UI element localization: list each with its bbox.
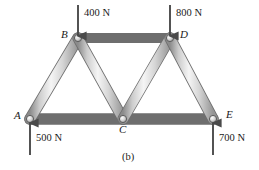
reaction-label-500n: 500 N bbox=[36, 133, 62, 144]
joint-label-E: E bbox=[226, 109, 233, 120]
member-CD bbox=[123, 38, 170, 119]
truss-diagram-canvas bbox=[0, 0, 259, 170]
pin-joint-A bbox=[26, 115, 33, 122]
reaction-label-700n: 700 N bbox=[219, 133, 245, 144]
truss-members bbox=[30, 38, 213, 119]
truss-figure: A B C D E 400 N 800 N 500 N 700 N (b) bbox=[0, 0, 259, 170]
joint-label-C: C bbox=[119, 124, 126, 135]
pin-joint-E bbox=[209, 115, 216, 122]
joint-label-D: D bbox=[180, 29, 188, 40]
figure-caption: (b) bbox=[122, 152, 134, 163]
member-DE bbox=[170, 38, 213, 119]
joint-label-B: B bbox=[61, 29, 68, 40]
load-label-400n: 400 N bbox=[84, 8, 110, 19]
member-AB bbox=[30, 38, 78, 119]
member-BC bbox=[78, 38, 123, 119]
joint-label-A: A bbox=[14, 110, 21, 121]
load-label-800n: 800 N bbox=[176, 8, 202, 19]
pin-joint-C bbox=[119, 115, 126, 122]
